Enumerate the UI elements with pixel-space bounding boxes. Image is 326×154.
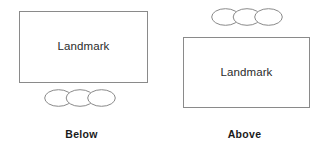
diagram-panel-above: Landmark Above xyxy=(163,0,326,154)
landmark-label: Landmark xyxy=(221,67,273,79)
ellipse-cluster-below xyxy=(44,89,116,107)
landmark-rectangle-below: Landmark xyxy=(19,11,148,83)
ellipse-shape xyxy=(88,90,116,107)
ellipse-cluster-above xyxy=(211,8,283,26)
landmark-label: Landmark xyxy=(58,41,110,53)
ellipse-shape xyxy=(255,9,283,26)
landmark-rectangle-above: Landmark xyxy=(183,37,310,108)
diagram-panel-below: Landmark Below xyxy=(0,0,163,154)
panel-caption-below: Below xyxy=(0,129,163,140)
panel-caption-above: Above xyxy=(163,129,326,140)
